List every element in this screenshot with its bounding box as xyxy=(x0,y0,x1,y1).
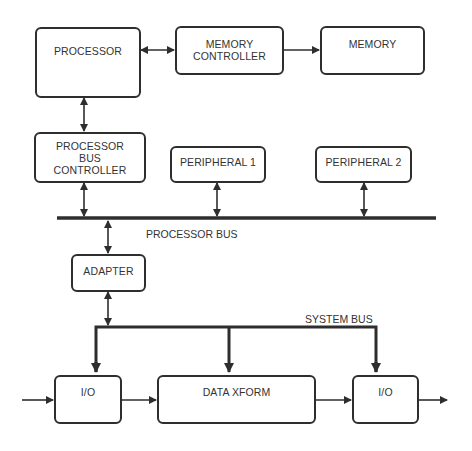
processor-bus-controller-block: PROCESSOR BUS CONTROLLER xyxy=(34,132,146,183)
pbc-label-3: CONTROLLER xyxy=(36,164,144,176)
system-bus-label: SYSTEM BUS xyxy=(305,313,373,325)
data-xform-label: DATA XFORM xyxy=(159,386,314,398)
memory-controller-block: MEMORY CONTROLLER xyxy=(175,26,284,75)
peripheral-1-block: PERIPHERAL 1 xyxy=(170,146,266,183)
memory-label: MEMORY xyxy=(322,38,423,50)
peripheral-1-label: PERIPHERAL 1 xyxy=(172,156,264,168)
memory-controller-label-2: CONTROLLER xyxy=(177,50,282,62)
peripheral-2-block: PERIPHERAL 2 xyxy=(315,146,412,183)
data-xform-block: DATA XFORM xyxy=(157,375,316,424)
system-bus-line xyxy=(96,327,376,372)
io-right-label: I/O xyxy=(354,386,417,398)
io-left-block: I/O xyxy=(54,375,122,424)
adapter-label: ADAPTER xyxy=(73,265,144,277)
pbc-label-2: BUS xyxy=(36,152,144,164)
adapter-block: ADAPTER xyxy=(71,254,146,292)
processor-bus-label: PROCESSOR BUS xyxy=(146,228,238,240)
memory-block: MEMORY xyxy=(320,26,425,75)
pbc-label-1: PROCESSOR xyxy=(36,140,144,152)
io-left-label: I/O xyxy=(56,386,120,398)
processor-block: PROCESSOR xyxy=(35,27,141,98)
io-right-block: I/O xyxy=(352,375,419,424)
memory-controller-label-1: MEMORY xyxy=(177,38,282,50)
processor-label: PROCESSOR xyxy=(37,45,139,57)
peripheral-2-label: PERIPHERAL 2 xyxy=(317,156,410,168)
